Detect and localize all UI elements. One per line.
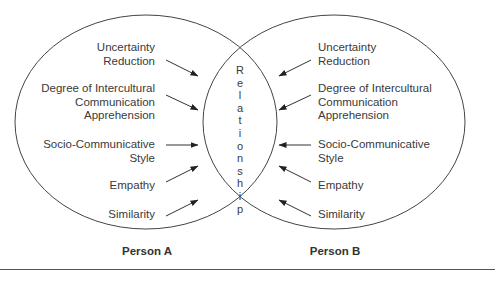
arrow-icon xyxy=(279,60,311,76)
arrow-icon xyxy=(166,60,198,76)
person-b-factor-similarity: Similarity xyxy=(318,208,488,222)
person-a-arrows xyxy=(166,60,198,216)
arrow-icon xyxy=(166,95,198,110)
person-b-factor-empathy: Empathy xyxy=(318,179,488,193)
person-b-arrows xyxy=(279,60,311,216)
arrow-icon xyxy=(279,95,311,110)
person-a-factor-similarity: Similarity xyxy=(0,208,155,222)
person-b-factor-apprehension: Degree of Intercultural Communication Ap… xyxy=(318,82,488,123)
person-b-label: Person B xyxy=(275,245,395,257)
arrow-icon xyxy=(166,166,198,182)
person-a-factor-uncertainty: Uncertainty Reduction xyxy=(0,41,155,68)
person-a-factor-apprehension: Degree of Intercultural Communication Ap… xyxy=(0,82,155,123)
person-a-label: Person A xyxy=(87,245,207,257)
arrow-icon xyxy=(279,200,311,216)
arrow-icon xyxy=(279,166,311,182)
person-b-factor-socio-style: Socio-Communicative Style xyxy=(318,138,488,165)
bottom-divider xyxy=(0,269,495,270)
person-b-factor-uncertainty: Uncertainty Reduction xyxy=(318,41,488,68)
arrow-icon xyxy=(166,200,198,216)
person-a-factor-socio-style: Socio-Communicative Style xyxy=(0,138,155,165)
person-a-factor-empathy: Empathy xyxy=(0,179,155,193)
relationship-label: R e l a t i o n s h i p xyxy=(233,64,247,215)
